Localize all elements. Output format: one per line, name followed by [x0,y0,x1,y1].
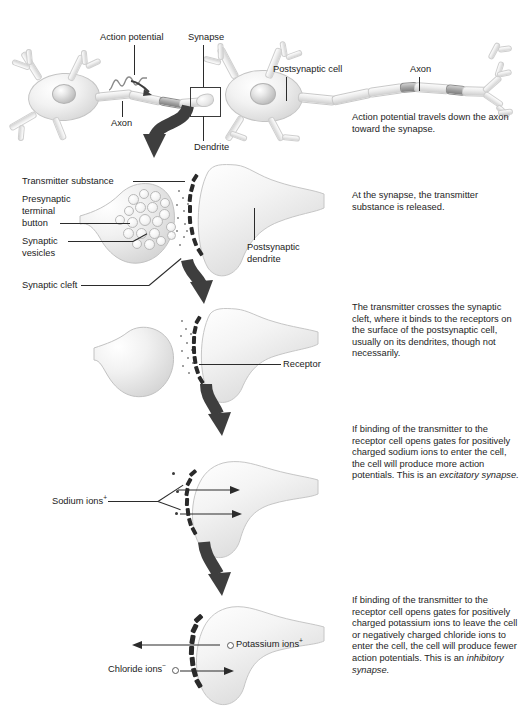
dendrite-branch [26,49,33,65]
label-axon-right: Axon [410,64,431,75]
panel-4-caption-italic: excitatory synapse. [439,470,519,480]
chloride-ion-dot [172,667,179,674]
sodium-ion-dot [172,472,175,475]
label-sodium-ions: Sodium ions+ [52,496,107,507]
synaptic-vesicle [147,202,158,213]
leader-synaptic-cleft [81,285,149,286]
sodium-charge-sign: + [103,494,107,501]
synaptic-vesicle [160,198,170,208]
leader-sodium-ions-branch-lower [158,501,181,510]
synaptic-vesicle [135,202,146,213]
synaptic-vesicle [139,189,149,199]
leader-presynaptic-terminal-button [60,223,130,224]
panel-1-neurons: Action potential Synapse Postsynaptic ce… [0,0,522,160]
label-sodium-ions-text: Sodium ions [52,496,103,506]
label-presynaptic-terminal-button-line2: terminal [22,206,55,217]
sodium-influx-arrow-icon [178,484,242,496]
dendrite-branch [229,130,248,142]
label-receptor: Receptor [283,359,321,370]
sodium-influx-arrow-icon [180,508,244,520]
postsynaptic-axon [367,83,404,98]
panel-3-caption: The transmitter crosses the synaptic cle… [352,302,520,360]
transmitter-molecule [178,190,180,192]
dendrite-branch [285,49,303,60]
dendrite-branch [217,43,224,60]
potassium-ion-dot [227,642,234,649]
transmitter-molecule [182,197,184,199]
leader-transmitter-substance [133,181,185,182]
transmitter-molecule [176,230,178,232]
receptor [188,194,193,202]
leader-synapse [203,45,204,87]
label-chloride-ions-text: Chloride ions [108,664,162,674]
label-action-potential: Action potential [100,32,164,43]
panel-1-caption: Action potential travels down the axon t… [352,112,517,135]
figure-canvas: Action potential Synapse Postsynaptic ce… [0,0,522,723]
label-potassium-ions: Potassium ions+ [236,639,303,650]
synaptic-vesicle [152,216,163,227]
leader-sodium-ions [108,501,158,502]
synaptic-vesicle [144,239,155,250]
postsynaptic-dendrite-shape [186,603,328,708]
transmitter-molecule [183,236,185,238]
panel-4-excitatory: Sodium ions+ If binding of the transmitt… [0,440,522,560]
synaptic-vesicle [156,236,166,246]
axon-terminal-branch [498,45,513,53]
label-presynaptic-terminal-button-line3: button [22,218,48,229]
panel-4-caption: If binding of the transmitter to the rec… [352,424,520,482]
postsynaptic-axon [297,92,336,106]
leader-dendrite [203,116,204,141]
transmitter-molecule [185,328,187,330]
leader-axon-right [419,77,420,91]
receptor [188,216,193,224]
leader-action-potential [134,45,135,75]
panel-2-release: Transmitter substance Presynaptic termin… [0,160,522,290]
dendrite-branch [282,134,301,142]
potassium-efflux-arrow-icon [132,639,222,651]
label-transmitter-substance: Transmitter substance [22,176,114,187]
synaptic-vesicle [124,206,134,216]
panel-2-caption: At the synapse, the transmitter substanc… [352,190,520,213]
dendrite-branch [81,50,88,65]
label-postsynaptic-dendrite-line1: Postsynaptic [247,242,300,253]
synaptic-vesicle [167,231,176,240]
leader-receptor [199,364,281,365]
postsynaptic-axon [331,88,372,106]
transmitter-molecule [179,244,181,246]
receptor [192,336,196,344]
label-synaptic-vesicles-line2: vesicles [22,248,55,259]
action-potential-arrow-icon [130,79,156,99]
presynaptic-nucleus [52,84,76,104]
leader-synaptic-vesicles [68,241,133,242]
panel-3-binding: Receptor The transmitter crosses the syn… [0,300,522,410]
receptor-gate [185,498,189,506]
label-chloride-ions: Chloride ions− [108,664,166,675]
receptor [192,346,196,354]
chloride-influx-arrow-icon [180,665,236,677]
label-postsynaptic-dendrite-line2: dendrite [247,254,281,265]
presynaptic-terminal-button-shape [92,326,178,402]
panel-5-caption: If binding of the transmitter to the rec… [352,595,520,676]
receptor [188,205,192,213]
label-synapse: Synapse [188,32,224,43]
transmitter-molecule [177,217,179,219]
chloride-charge-sign: − [162,662,166,669]
transmitter-molecule [181,350,183,352]
transmitter-molecule [181,320,183,322]
label-postsynaptic-cell: Postsynaptic cell [273,64,342,75]
flow-arrow-3-icon [196,382,256,444]
label-potassium-ions-text: Potassium ions [236,639,299,649]
synaptic-vesicle [139,214,151,226]
transmitter-molecule [182,365,184,367]
transmitter-molecule [183,210,185,212]
dendrite-branch [18,125,25,141]
leader-postsynaptic-dendrite [254,208,255,240]
transmitter-molecule [186,342,188,344]
sodium-ion-dot [175,512,178,515]
potassium-charge-sign: + [299,637,303,644]
synaptic-vesicle [123,228,134,239]
label-synaptic-cleft: Synaptic cleft [22,280,77,291]
transmitter-molecule [187,357,189,359]
postsynaptic-nucleus [250,83,276,105]
leader-postsynaptic-cell [286,77,287,101]
